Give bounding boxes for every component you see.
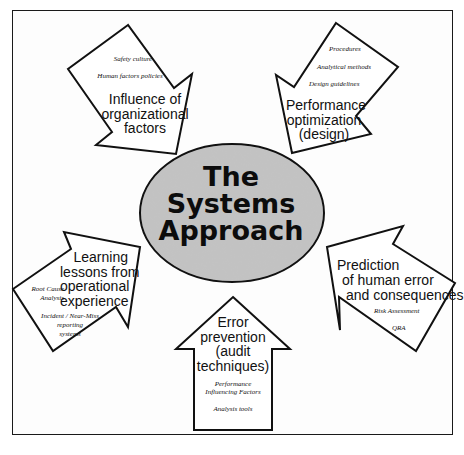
arrow-performance-title: Performance optimization (design) — [286, 98, 362, 142]
title-line: factors — [100, 121, 190, 136]
item-qra: QRA — [392, 325, 406, 332]
arrow-organizational-title: Influence of organizational factors — [100, 92, 190, 136]
title-line: Performance — [286, 98, 362, 113]
item-analytical-methods: Analytical methods — [317, 64, 371, 71]
title-line: techniques) — [188, 359, 278, 374]
arrow-prediction-title-line-2: of human error — [342, 273, 434, 288]
center-title: The Systems Approach — [146, 163, 316, 244]
title-line: Error — [188, 315, 278, 330]
item-influencing-factors: Influencing Factors — [188, 389, 278, 396]
item-procedures: Procedures — [329, 46, 361, 53]
title-line: Influence of — [100, 92, 190, 107]
title-line: prevention — [188, 330, 278, 345]
title-line: optimization — [286, 113, 362, 128]
title-line: (design) — [286, 127, 362, 142]
title-line: (audit — [188, 344, 278, 359]
arrow-learning-title: Learning lessons from operational experi… — [60, 250, 128, 309]
item-safety-culture: Safety culture — [98, 56, 168, 63]
center-title-line: Approach — [146, 217, 316, 244]
title-line: operational — [60, 279, 128, 294]
item-incident-near-miss: Incident / Near-Miss — [35, 313, 105, 320]
center-title-line: The — [146, 163, 316, 190]
item-analysis-tools: Analysis tools — [188, 406, 278, 413]
item-analysis: Analysis — [22, 295, 64, 302]
item-systems: systems — [35, 331, 105, 338]
title-line: experience — [60, 294, 128, 309]
arrow-prediction-title-line-1: Prediction — [337, 258, 399, 273]
arrow-prediction-title-line-3: and consequences — [346, 288, 464, 303]
item-risk-assessment: Risk Assessment — [374, 308, 420, 315]
title-line: lessons from — [60, 265, 128, 280]
title-line: organizational — [100, 107, 190, 122]
item-root-cause: Root Cause — [22, 286, 64, 293]
arrow-prevention-title: Error prevention (audit techniques) — [188, 315, 278, 374]
center-title-line: Systems — [146, 190, 316, 217]
item-design-guidelines: Design guidelines — [309, 81, 359, 88]
item-human-factors-policies: Human factors policies — [85, 73, 175, 80]
title-line: Learning — [60, 250, 128, 265]
item-reporting: reporting — [35, 322, 105, 329]
